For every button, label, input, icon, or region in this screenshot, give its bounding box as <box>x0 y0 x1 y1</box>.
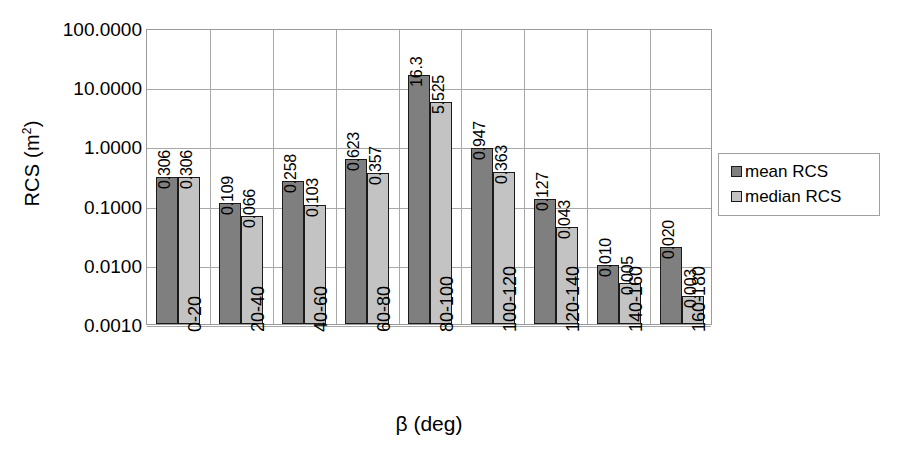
legend: mean RCS median RCS <box>718 153 880 216</box>
rcs-bar-chart: RCS (m2) 100.000010.00001.00000.10000.01… <box>0 0 916 458</box>
y-tick-label: 100.0000 <box>24 20 142 39</box>
x-tick-label: 20-40 <box>249 286 267 332</box>
bar-value-label: 0.306 <box>157 150 173 189</box>
bar-value-label: 0.010 <box>598 238 614 277</box>
bar[interactable] <box>408 75 430 324</box>
bar-value-label: 0.127 <box>535 172 551 211</box>
y-axis-tick-labels: 100.000010.00001.00000.10000.01000.0010 <box>20 0 142 458</box>
x-tick-label: 140-160 <box>627 266 645 332</box>
x-tick-label: 60-80 <box>375 286 393 332</box>
y-tick-label: 10.0000 <box>24 79 142 98</box>
bar-group: 0.2580.103 <box>273 30 336 324</box>
legend-item-median-rcs[interactable]: median RCS <box>731 188 841 205</box>
bar-value-label: 0.357 <box>368 146 384 185</box>
bar-value-label: 0.947 <box>472 121 488 160</box>
x-tick-label: 0-20 <box>186 296 204 332</box>
bar-value-label: 16.3 <box>409 56 425 86</box>
bar-group: 0.6230.357 <box>336 30 399 324</box>
legend-label-median-rcs: median RCS <box>745 188 841 205</box>
bar-value-label: 0.103 <box>305 178 321 217</box>
bar-value-label: 0.306 <box>179 150 195 189</box>
bar-group: 0.3060.306 <box>147 30 210 324</box>
x-tick-label: 160-180 <box>690 266 708 332</box>
y-tick-label: 1.0000 <box>24 138 142 157</box>
bar[interactable] <box>345 159 367 324</box>
bar[interactable] <box>219 203 241 324</box>
x-tick-label: 120-140 <box>564 266 582 332</box>
x-axis-tick-labels: 0-2020-4040-6060-8080-100100-120120-1401… <box>146 326 712 426</box>
x-tick-label: 100-120 <box>501 266 519 332</box>
legend-swatch-median-rcs <box>731 191 742 202</box>
bar-value-label: 0.066 <box>242 189 258 228</box>
y-tick-label: 0.1000 <box>24 198 142 217</box>
y-tick-label: 0.0100 <box>24 257 142 276</box>
legend-item-mean-rcs[interactable]: mean RCS <box>731 163 828 180</box>
y-tick-label: 0.0010 <box>24 316 142 335</box>
bar-value-label: 0.623 <box>346 132 362 171</box>
bar-value-label: 0.020 <box>661 220 677 259</box>
bar-value-label: 0.258 <box>283 154 299 193</box>
bar[interactable] <box>282 181 304 324</box>
bar-value-label: 0.043 <box>557 200 573 239</box>
legend-label-mean-rcs: mean RCS <box>745 163 828 180</box>
x-axis-title: β (deg) <box>146 412 712 436</box>
x-tick-label: 80-100 <box>438 276 456 332</box>
bar[interactable] <box>471 148 493 324</box>
bar-group: 0.1090.066 <box>210 30 273 324</box>
bar[interactable] <box>156 177 178 324</box>
legend-swatch-mean-rcs <box>731 166 742 177</box>
x-tick-label: 40-60 <box>312 286 330 332</box>
bar-value-label: 0.363 <box>494 145 510 184</box>
bar-value-label: 5.525 <box>431 75 447 114</box>
bar[interactable] <box>534 199 556 324</box>
bar-value-label: 0.109 <box>220 176 236 215</box>
